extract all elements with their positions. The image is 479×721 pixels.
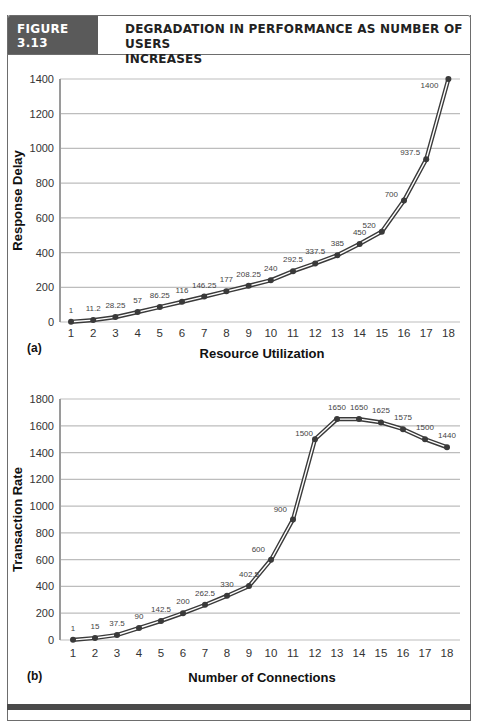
data-label: 116 (176, 286, 189, 295)
x-tick-label: 2 (92, 647, 98, 659)
data-label: 292.5 (283, 255, 304, 264)
data-label: 385 (331, 239, 345, 248)
data-point-marker (444, 444, 450, 450)
data-point-marker (90, 317, 96, 323)
data-label: 240 (264, 264, 278, 273)
y-tick-label: 1400 (30, 447, 54, 459)
data-label: 1440 (438, 431, 456, 440)
data-point-marker (422, 436, 428, 442)
series-line-inner (71, 79, 448, 322)
data-point-marker (201, 294, 207, 300)
data-point-marker (246, 583, 252, 589)
x-tick-label: 11 (287, 327, 299, 339)
charts-canvas: 0200400600800100012001400123456789101112… (0, 0, 479, 721)
x-tick-label: 3 (112, 327, 118, 339)
data-label: 262.5 (195, 589, 216, 598)
y-axis-title: Transaction Rate (10, 467, 25, 572)
data-point-marker (356, 416, 362, 422)
y-tick-label: 1000 (30, 142, 54, 154)
x-tick-label: 12 (309, 327, 322, 339)
data-point-marker (312, 260, 318, 266)
y-tick-label: 1600 (30, 420, 54, 432)
x-tick-label: 16 (398, 327, 411, 339)
data-label: 208.25 (236, 270, 261, 279)
x-tick-label: 4 (134, 327, 141, 339)
data-label: 330 (220, 580, 234, 589)
data-point-marker (268, 557, 274, 563)
data-label: 177 (220, 275, 234, 284)
x-tick-label: 5 (157, 327, 163, 339)
data-label: 1650 (328, 403, 346, 412)
data-point-marker (179, 299, 185, 305)
chart-b-transaction-rate: 0200400600800100012001400160018001234567… (10, 393, 460, 685)
data-point-marker (378, 419, 384, 425)
y-tick-label: 400 (36, 247, 54, 259)
data-label: 146.25 (192, 281, 217, 290)
x-tick-label: 5 (158, 647, 164, 659)
data-label: 1500 (416, 423, 434, 432)
data-label: 1400 (421, 81, 439, 90)
data-label: 1500 (295, 429, 313, 438)
data-label: 600 (252, 545, 266, 554)
data-label: 520 (362, 221, 376, 230)
data-label: 900 (274, 505, 288, 514)
figure-footer-bar (7, 704, 471, 710)
y-tick-label: 0 (48, 316, 54, 328)
data-label: 86.25 (150, 291, 171, 300)
data-label: 57 (133, 296, 142, 305)
data-label: 11.2 (86, 304, 102, 313)
data-label: 1575 (394, 413, 412, 422)
y-tick-label: 200 (36, 607, 54, 619)
x-tick-label: 9 (245, 327, 251, 339)
x-tick-label: 7 (202, 647, 208, 659)
y-tick-label: 1800 (30, 393, 54, 405)
x-tick-label: 6 (180, 647, 186, 659)
x-tick-label: 18 (442, 327, 455, 339)
data-label: 142.5 (151, 605, 172, 614)
x-tick-label: 1 (68, 327, 74, 339)
data-point-marker (268, 277, 274, 283)
data-point-marker (70, 637, 76, 643)
x-tick-label: 14 (353, 327, 366, 339)
data-point-marker (246, 283, 252, 289)
x-tick-label: 15 (375, 647, 388, 659)
x-tick-label: 4 (136, 647, 143, 659)
data-label: 1650 (350, 403, 368, 412)
x-tick-label: 11 (287, 647, 299, 659)
data-label: 1625 (372, 406, 390, 415)
data-point-marker (112, 314, 118, 320)
x-tick-label: 14 (353, 647, 366, 659)
data-label: 700 (385, 190, 399, 199)
data-point-marker (223, 288, 229, 294)
series-line (71, 79, 448, 322)
data-point-marker (180, 610, 186, 616)
data-label: 1 (71, 624, 76, 633)
data-point-marker (379, 229, 385, 235)
y-tick-label: 200 (36, 281, 54, 293)
x-tick-label: 16 (397, 647, 410, 659)
x-axis-title: Resource Utilization (200, 346, 325, 361)
y-tick-label: 400 (36, 580, 54, 592)
data-point-marker (135, 309, 141, 315)
data-point-marker (423, 156, 429, 162)
data-label: 90 (135, 612, 144, 621)
x-tick-label: 15 (375, 327, 388, 339)
x-tick-label: 13 (331, 327, 344, 339)
y-tick-label: 1000 (30, 500, 54, 512)
y-axis-title: Response Delay (10, 150, 25, 251)
data-point-marker (401, 198, 407, 204)
data-point-marker (334, 252, 340, 258)
data-label: 337.5 (305, 247, 326, 256)
data-point-marker (334, 416, 340, 422)
x-tick-label: 6 (179, 327, 185, 339)
x-tick-label: 10 (265, 647, 278, 659)
y-tick-label: 600 (36, 212, 54, 224)
y-tick-label: 1400 (30, 73, 54, 85)
x-tick-label: 8 (223, 327, 229, 339)
x-tick-label: 12 (309, 647, 322, 659)
data-label: 200 (176, 597, 190, 606)
y-tick-label: 0 (48, 634, 54, 646)
data-point-marker (445, 76, 451, 82)
data-label: 402.5 (239, 570, 260, 579)
x-tick-label: 7 (201, 327, 207, 339)
